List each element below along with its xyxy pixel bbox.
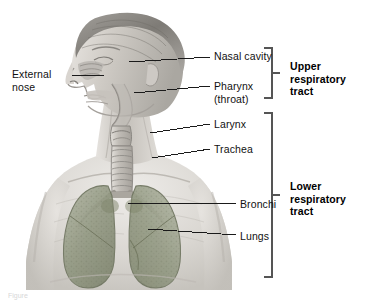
label-lower-respiratory-tract: Lower respiratory tract: [290, 180, 346, 218]
label-bronchi: Bronchi: [240, 198, 276, 211]
caption-fragment: Figure: [8, 292, 68, 300]
label-nasal-cavity: Nasal cavity: [214, 50, 272, 63]
label-lungs: Lungs: [240, 230, 269, 243]
label-larynx: Larynx: [214, 118, 246, 131]
label-trachea: Trachea: [214, 143, 253, 156]
head-shape: [65, 13, 184, 128]
label-external-nose: External nose: [12, 68, 51, 93]
label-upper-respiratory-tract: Upper respiratory tract: [290, 60, 346, 98]
larynx-shape: [111, 126, 132, 146]
label-pharynx: Pharynx (throat): [214, 80, 253, 105]
anatomy-illustration: [0, 0, 366, 305]
respiratory-system-figure: External nose Nasal cavity Pharynx (thro…: [0, 0, 366, 305]
trachea-shape: [111, 146, 133, 192]
